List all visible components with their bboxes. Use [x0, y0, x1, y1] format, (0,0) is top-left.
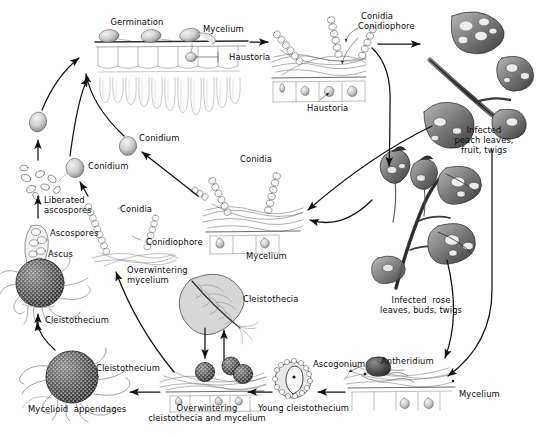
- label-ascogonium: Ascogonium: [313, 360, 365, 370]
- label-ascospores: Ascospores: [50, 229, 98, 239]
- infected-rose-illustration: [372, 146, 482, 288]
- germination-illustration: [95, 27, 248, 114]
- label-conidia-center: Conidia: [240, 155, 272, 165]
- arrow-spore-to-surface-2: [70, 78, 88, 156]
- arrow-rose-to-center-mycelium: [310, 200, 372, 223]
- arrow-spore-to-surface-1: [42, 58, 79, 110]
- label-ascus: Ascus: [48, 250, 73, 260]
- label-conidiophore-left: Conidiophore: [146, 238, 203, 248]
- label-liberated-ascospores: Liberated ascospores: [44, 196, 92, 216]
- label-germination: Germination: [110, 18, 163, 28]
- label-conidia-left: Conidia: [120, 205, 152, 215]
- label-infected-rose: Infected rose leaves, buds, twigs: [380, 296, 462, 316]
- label-cleistothecia-leaf: Cleistothecia: [243, 295, 299, 305]
- label-overwintering-cleistothecia: Overwintering cleistothecia and mycelium: [148, 404, 266, 424]
- cleistothecium-ascus-illustration: [0, 225, 91, 324]
- label-cleistothecium-upper: Cleistothecium: [45, 316, 109, 326]
- arrow-conidiophore-to-rose: [372, 48, 390, 166]
- label-mycelioid-appendages: Mycelioid appendages: [28, 405, 126, 415]
- cycle-arrows: [37, 42, 492, 392]
- label-antheridium: Antheridium: [381, 357, 434, 367]
- label-haustoria-mid: Haustoria: [307, 104, 348, 114]
- label-overwintering-mycelium: Overwintering mycelium: [127, 266, 188, 286]
- arrow-spore-to-surface-3: [86, 74, 124, 136]
- label-mycelium-center: Mycelium: [246, 252, 287, 262]
- arrow-conidiophore-to-conidium-left: [80, 182, 88, 196]
- label-mycelium-top: Mycelium: [203, 25, 244, 35]
- label-conidium-lower: Conidium: [88, 162, 129, 172]
- label-cleistothecium-lower: Cleistothecium: [96, 364, 160, 374]
- young-cleistothecium-illustration: [272, 358, 312, 398]
- disease-cycle-diagram: Germination Mycelium Haustoria Conidia C…: [0, 0, 539, 436]
- label-conidium-upper: Conidium: [139, 134, 180, 144]
- label-mycelium-bottom: Mycelium: [459, 390, 500, 400]
- conidiophore-mycelium-center: [191, 172, 303, 254]
- label-infected-peach: Infected peach leaves, fruit, twigs: [454, 126, 513, 156]
- arrow-center-to-conidium: [142, 152, 198, 196]
- label-conidiophore-top: Conidiophore: [358, 22, 415, 32]
- arrow-cleistothecium-up: [37, 322, 55, 350]
- label-haustoria-top: Haustoria: [229, 53, 270, 63]
- cleistothecia-leaf-illustration: [179, 274, 258, 344]
- label-young-cleistothecium: Young cleistothecium: [258, 404, 349, 414]
- arrow-overwintering-to-mycelium: [116, 272, 174, 372]
- diagram-artwork: [0, 0, 539, 436]
